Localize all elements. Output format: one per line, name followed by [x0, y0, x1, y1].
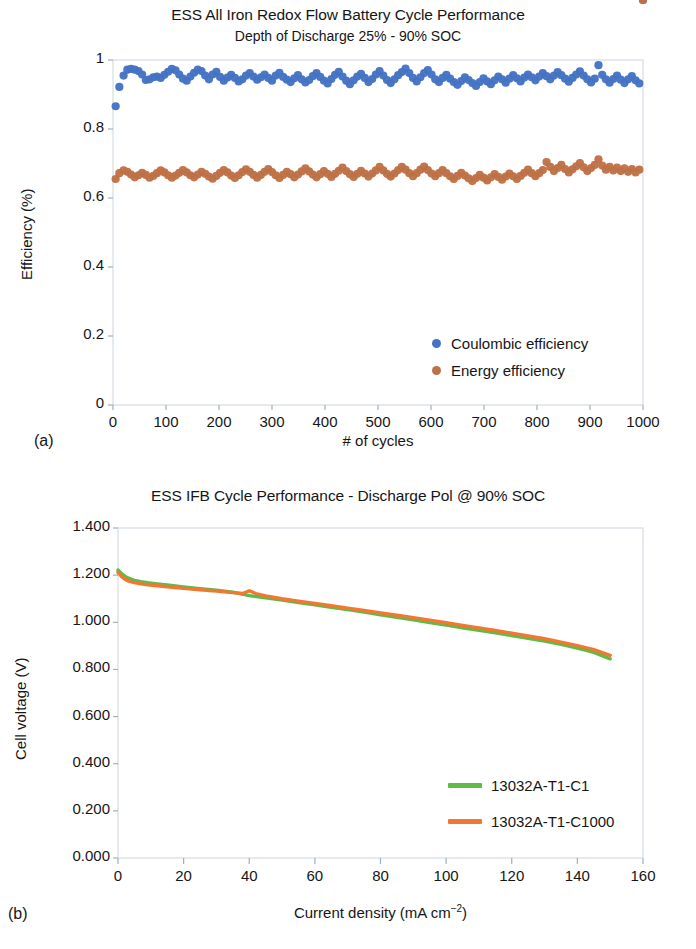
chart-b-ytick-1.000: 1.000: [16, 611, 110, 628]
chart-b-xtick-120: 120: [477, 867, 547, 884]
chart-b-x-axis-title: Current density (mA cm−2): [118, 903, 643, 921]
chart-b-xtick-100: 100: [411, 867, 481, 884]
chart-b-ytick-1.200: 1.200: [16, 564, 110, 581]
figure-container: ESS All Iron Redox Flow Battery Cycle Pe…: [0, 0, 696, 949]
chart-b-ytick-0.400: 0.400: [16, 753, 110, 770]
chart-b-legend-label: 13032A-T1-C1: [491, 777, 589, 794]
chart-b-xtick-20: 20: [149, 867, 219, 884]
panel-b-letter: (b): [8, 905, 28, 923]
chart-b-legend-item-c1[interactable]: 13032A-T1-C1: [448, 777, 589, 794]
chart-b-xtick-0: 0: [83, 867, 153, 884]
legend-line-icon: [448, 819, 482, 824]
chart-b-legend-label: 13032A-T1-C1000: [491, 813, 614, 830]
chart-b-ytick-0.200: 0.200: [16, 800, 110, 817]
chart-b-ytick-1.400: 1.400: [16, 517, 110, 534]
chart-b-xtick-160: 160: [608, 867, 678, 884]
chart-b-xtick-140: 140: [542, 867, 612, 884]
chart-b-ytick-0.800: 0.800: [16, 658, 110, 675]
legend-line-icon: [448, 783, 482, 788]
chart-b-legend-item-c1000[interactable]: 13032A-T1-C1000: [448, 813, 614, 830]
chart-b-xtick-80: 80: [346, 867, 416, 884]
chart-b-ytick-0.000: 0.000: [16, 847, 110, 864]
chart-b-ytick-0.600: 0.600: [16, 706, 110, 723]
chart-b-xtick-40: 40: [214, 867, 284, 884]
chart-b-xtick-60: 60: [280, 867, 350, 884]
